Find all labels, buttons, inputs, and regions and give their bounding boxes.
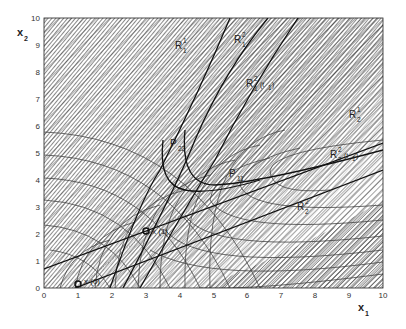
svg-text:11: 11 [237,175,244,182]
svg-text:7: 7 [36,95,41,104]
label-x0-point: x (0) [84,277,100,286]
svg-text:1: 1 [36,257,41,266]
svg-text:(t: (t [260,81,264,89]
svg-text:1: 1 [183,47,187,54]
svg-text:2: 2 [36,230,41,239]
svg-text:10: 10 [31,14,40,23]
svg-text:2: 2 [305,208,309,215]
svg-text:4: 4 [178,291,183,300]
svg-text:1: 1 [242,41,246,48]
svg-text:5: 5 [36,149,41,158]
x-axis-label: x 1 [358,301,369,317]
svg-text:22: 22 [178,145,186,152]
svg-text:): ) [272,81,274,89]
svg-text:x: x [358,301,365,313]
svg-text:2: 2 [338,156,342,163]
label-x1-point: x (1) [152,227,168,236]
svg-text:R: R [175,40,182,51]
svg-text:4: 4 [36,176,41,185]
svg-text:5: 5 [212,291,217,300]
svg-text:2: 2 [242,31,246,38]
svg-text:1: 1 [254,85,258,92]
x-ticks: 0 1 2 3 4 5 6 7 8 9 10 [42,291,388,300]
svg-text:1: 1 [183,37,187,44]
svg-text:R: R [234,34,241,45]
svg-text:R: R [246,78,253,89]
svg-text:8: 8 [313,291,318,300]
svg-text:2: 2 [305,198,309,205]
y-ticks: 0 1 2 3 4 5 6 7 8 9 10 [31,14,40,293]
phase-plot: 0 1 2 3 4 5 6 7 8 9 10 0 1 2 3 4 5 6 7 8… [0,0,406,329]
svg-text:6: 6 [36,122,41,131]
svg-text:2: 2 [357,116,361,123]
svg-text:8: 8 [36,68,41,77]
svg-text:3: 3 [144,291,149,300]
y-axis-label: x 2 [17,26,28,42]
svg-text:2: 2 [24,35,28,42]
svg-text:3: 3 [36,203,41,212]
svg-text:9: 9 [36,41,41,50]
svg-text:10: 10 [379,291,388,300]
svg-text:7: 7 [279,291,284,300]
svg-text:1: 1 [357,106,361,113]
svg-text:P: P [229,168,236,179]
svg-text:0: 0 [42,291,47,300]
svg-text:x: x [17,26,24,38]
svg-text:2: 2 [254,75,258,82]
svg-text:1: 1 [365,310,369,317]
svg-text:R: R [330,149,337,160]
svg-text:2: 2 [338,146,342,153]
svg-text:(t: (t [344,152,348,160]
svg-text:P: P [170,138,177,149]
svg-text:2: 2 [110,291,115,300]
svg-text:R: R [297,201,304,212]
svg-text:0: 0 [36,284,41,293]
svg-text:): ) [356,152,358,160]
svg-text:9: 9 [347,291,352,300]
svg-text:1: 1 [76,291,81,300]
svg-text:R: R [349,109,356,120]
svg-text:6: 6 [245,291,250,300]
